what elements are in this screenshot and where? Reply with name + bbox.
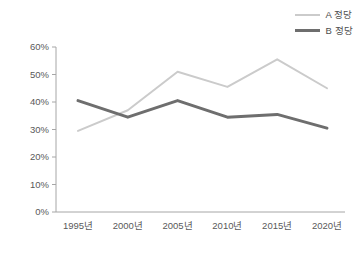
y-tick-label: 50%	[15, 70, 49, 80]
y-tick-label: 40%	[15, 97, 49, 107]
x-tick-label: 2005년	[163, 220, 193, 231]
plot-area: 0%10%20%30%40%50%60% 1995년2000년2005년2010…	[0, 0, 361, 257]
y-tick-label: 0%	[15, 207, 49, 217]
line-chart: A 정당 B 정당 0%10%20%30%40%50%60% 1995년2000…	[0, 0, 361, 257]
x-tick-label: 2015년	[262, 220, 292, 231]
plot-svg	[0, 0, 361, 257]
y-tick-label: 20%	[15, 152, 49, 162]
y-axis	[52, 47, 56, 212]
y-tick-label: 10%	[15, 180, 49, 190]
series-layer	[78, 59, 327, 131]
y-tick-label: 60%	[15, 42, 49, 52]
y-tick-label: 30%	[15, 125, 49, 135]
x-tick-label: 2020년	[312, 220, 342, 231]
x-tick-label: 2000년	[113, 220, 143, 231]
series-line-b	[78, 101, 327, 129]
series-line-a	[78, 59, 327, 131]
x-tick-label: 1995년	[63, 220, 93, 231]
x-tick-label: 2010년	[212, 220, 242, 231]
